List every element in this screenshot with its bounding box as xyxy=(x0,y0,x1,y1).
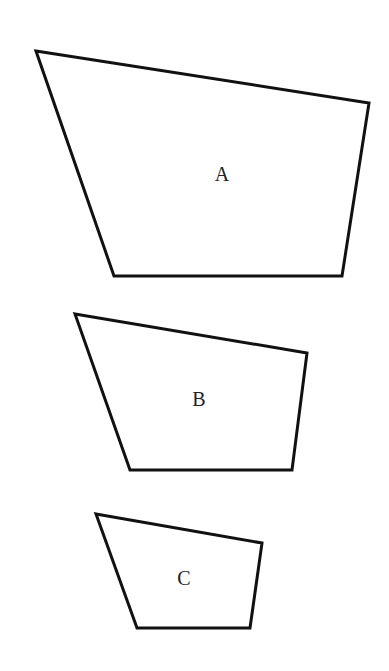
shape-b-label: B xyxy=(192,388,205,410)
quadrilateral-c: C xyxy=(96,514,262,628)
shape-b-outline xyxy=(75,314,307,470)
shape-a-outline xyxy=(36,51,369,276)
quadrilateral-b: B xyxy=(75,314,307,470)
shape-a-label: A xyxy=(215,163,230,185)
shape-c-label: C xyxy=(177,567,190,589)
quadrilateral-a: A xyxy=(36,51,369,276)
diagram-canvas: A B C xyxy=(0,0,389,671)
